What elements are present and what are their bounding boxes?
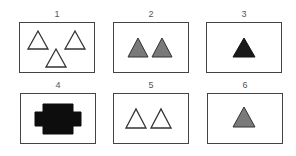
- panel-1: [19, 22, 95, 73]
- panel-4-shapes: [21, 94, 95, 143]
- panel-1-shapes: [20, 23, 94, 72]
- panel-1-label: 1: [19, 9, 95, 19]
- triangle-filled-gray-icon: [233, 107, 255, 127]
- triangle-filled-gray-icon: [128, 38, 148, 57]
- triangle-outline-icon: [126, 109, 146, 128]
- panel-5-label: 5: [113, 80, 189, 90]
- panel-2: [113, 22, 189, 73]
- panel-6-shapes: [208, 94, 282, 143]
- panel-4: [20, 93, 96, 144]
- panel-2-label: 2: [113, 9, 189, 19]
- panel-4-label: 4: [20, 80, 96, 90]
- triangle-filled-gray-icon: [152, 38, 172, 57]
- triangle-outline-icon: [65, 31, 85, 49]
- panel-5: [113, 93, 189, 144]
- panel-3: [206, 22, 282, 73]
- triangle-outline-icon: [28, 31, 48, 49]
- panel-5-shapes: [114, 94, 188, 143]
- panel-3-label: 3: [206, 9, 282, 19]
- triangle-outline-icon: [46, 49, 66, 67]
- panel-6: [207, 93, 283, 144]
- triangle-filled-black-icon: [233, 38, 255, 57]
- panel-2-shapes: [114, 23, 188, 72]
- panel-6-label: 6: [207, 80, 283, 90]
- blob-filled-black-icon: [35, 104, 81, 134]
- triangle-outline-icon: [151, 109, 171, 128]
- panel-3-shapes: [207, 23, 281, 72]
